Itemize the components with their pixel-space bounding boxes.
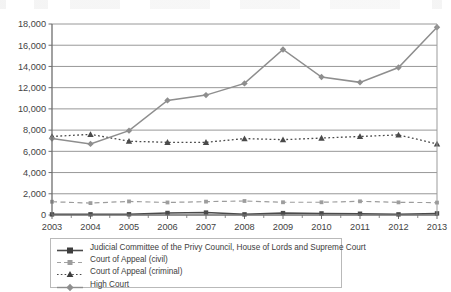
legend-item-judicial-committee: Judicial Committee of the Privy Council,…: [55, 242, 341, 254]
legend-item-high-court: High Court: [55, 278, 341, 290]
data-point-marker: [127, 212, 131, 216]
legend-label-court-of-appeal-civil: Court of Appeal (civil): [90, 254, 168, 265]
chart-legend: Judicial Committee of the Privy Council,…: [50, 238, 342, 288]
data-point-marker: [87, 141, 93, 147]
y-tick-label: 6,000: [23, 147, 46, 157]
data-point-marker: [166, 201, 170, 205]
y-tick-label: 18,000: [18, 19, 46, 29]
y-tick-label: 2,000: [23, 189, 46, 199]
y-tick-label: 10,000: [18, 104, 46, 114]
x-axis-ticks: 2003200420052006200720082009201020112012…: [42, 215, 447, 232]
data-point-marker: [88, 212, 92, 216]
gridlines: [52, 24, 437, 194]
data-point-marker: [127, 200, 131, 204]
legend-label-high-court: High Court: [90, 279, 129, 290]
legend-marker-judicial-committee: [55, 242, 85, 253]
legend-item-court-of-appeal-civil: Court of Appeal (civil): [55, 254, 341, 266]
data-point-marker: [397, 200, 401, 204]
legend-item-court-of-appeal-criminal: Court of Appeal (criminal): [55, 266, 341, 278]
x-tick-label: 2005: [119, 222, 139, 232]
data-point-marker: [89, 201, 93, 205]
data-point-marker: [357, 79, 363, 85]
x-tick-label: 2007: [196, 222, 216, 232]
legend-label-court-of-appeal-criminal: Court of Appeal (criminal): [90, 266, 182, 277]
data-point-marker: [358, 199, 362, 203]
y-tick-label: 0: [41, 210, 46, 220]
data-point-marker: [320, 200, 324, 204]
legend-marker-high-court: [55, 279, 85, 290]
x-tick-label: 2009: [273, 222, 293, 232]
data-point-marker: [281, 200, 285, 204]
legend-marker-court-of-appeal-civil: [55, 254, 85, 265]
y-tick-label: 8,000: [23, 125, 46, 135]
data-point-marker: [203, 92, 209, 98]
legend-marker-court-of-appeal-criminal: [55, 266, 85, 277]
y-axis-ticks: 02,0004,0006,0008,00010,00012,00014,0001…: [18, 19, 52, 220]
legend-label-judicial-committee: Judicial Committee of the Privy Council,…: [90, 242, 366, 253]
data-point-marker: [318, 135, 324, 141]
data-point-marker: [204, 200, 208, 204]
x-tick-label: 2004: [80, 222, 100, 232]
line-chart: 02,0004,0006,0008,00010,00012,00014,0001…: [0, 0, 451, 292]
x-tick-label: 2006: [157, 222, 177, 232]
data-point-marker: [280, 136, 286, 142]
y-tick-label: 14,000: [18, 62, 46, 72]
series-2: [50, 199, 439, 205]
x-tick-label: 2008: [234, 222, 254, 232]
data-point-marker: [87, 131, 93, 137]
y-tick-label: 4,000: [23, 168, 46, 178]
data-series-group: [49, 24, 440, 217]
y-tick-label: 12,000: [18, 83, 46, 93]
x-tick-label: 2010: [311, 222, 331, 232]
x-tick-label: 2011: [350, 222, 370, 232]
y-tick-label: 16,000: [18, 41, 46, 51]
data-point-marker: [204, 210, 208, 214]
data-point-marker: [243, 199, 247, 203]
x-tick-label: 2013: [427, 222, 447, 232]
x-tick-label: 2003: [42, 222, 62, 232]
data-point-marker: [241, 135, 247, 141]
x-tick-label: 2012: [388, 222, 408, 232]
series-4: [49, 24, 440, 147]
